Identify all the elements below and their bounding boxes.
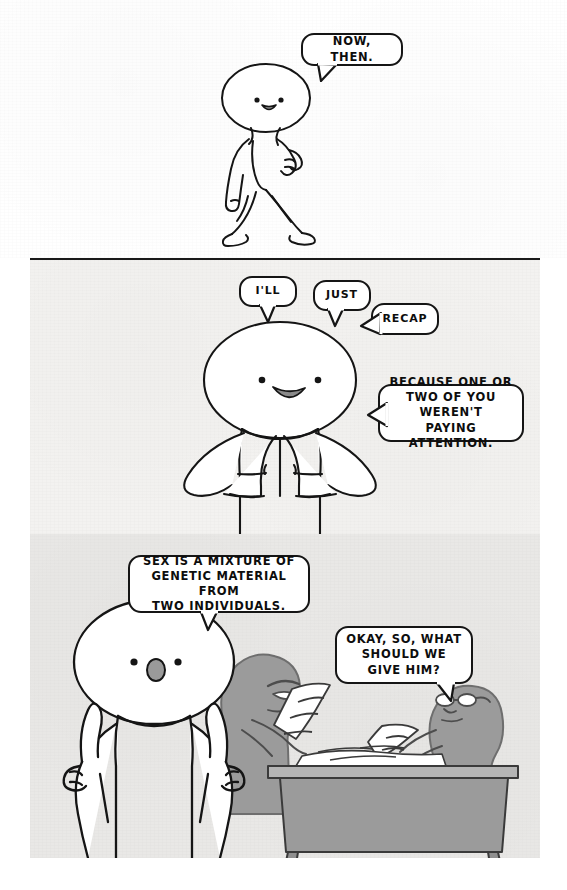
- speech-bubble-tail-because: [366, 400, 390, 430]
- panel-1-artwork: [0, 0, 567, 258]
- speech-bubble-sex-is-a-mixture: SEX IS A MIXTURE OF GENETIC MATERIAL FRO…: [128, 555, 310, 613]
- speech-bubble-tail-recap: [359, 310, 383, 338]
- speech-bubble-just: JUST: [313, 280, 371, 311]
- speech-bubble-tail-sex-is-a-mixture: [198, 610, 224, 634]
- comic-panel-3: SEX IS A MIXTURE OF GENETIC MATERIAL FRO…: [30, 534, 540, 858]
- big-foreground-figure: [64, 600, 245, 858]
- speech-bubble-tail-okay-so-what: [434, 681, 462, 705]
- speech-bubble-tail-just: [326, 308, 348, 330]
- comic-page: NOW, THEN.: [0, 0, 567, 890]
- speech-bubble-ill: I'LL: [239, 276, 297, 307]
- speech-bubble-because: BECAUSE ONE OR TWO OF YOU WEREN'T PAYING…: [378, 384, 524, 442]
- speech-bubble-tail-ill: [258, 304, 280, 326]
- speech-bubble-now-then: NOW, THEN.: [301, 33, 403, 66]
- comic-panel-2: I'LL JUST RECAP BECAUSE ONE OR TWO OF YO…: [30, 258, 540, 536]
- comic-panel-1: NOW, THEN.: [0, 0, 567, 258]
- speech-bubble-okay-so-what: OKAY, SO, WHAT SHOULD WE GIVE HIM?: [335, 626, 473, 684]
- speech-bubble-tail-now-then: [316, 63, 346, 85]
